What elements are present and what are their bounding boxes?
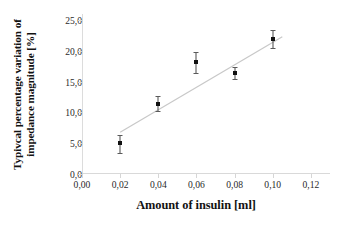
x-tick-label: 0,04: [138, 179, 178, 190]
error-bar-cap: [156, 96, 161, 97]
y-axis-title-line2: impedance magnitude [%]: [23, 20, 36, 171]
y-tick-label: 15,0: [48, 76, 82, 87]
y-tick-mark: [78, 143, 82, 144]
y-tick-label: 5,0: [48, 138, 82, 149]
error-bar-cap: [270, 48, 275, 49]
data-point: [156, 102, 160, 106]
x-tick-mark: [196, 174, 197, 178]
error-bar-cap: [194, 73, 199, 74]
y-tick-mark: [78, 20, 82, 21]
x-tick-label: 0,08: [215, 179, 255, 190]
x-tick-label: 0,12: [291, 179, 331, 190]
y-tick-labels: 0,05,010,015,020,025,0: [44, 14, 82, 174]
data-point: [271, 37, 275, 41]
y-tick-mark: [78, 82, 82, 83]
x-tick-mark: [235, 174, 236, 178]
y-tick-mark: [78, 51, 82, 52]
error-bar-cap: [194, 52, 199, 53]
error-bar-cap: [232, 79, 237, 80]
x-tick-mark: [311, 174, 312, 178]
y-tick-mark: [78, 112, 82, 113]
x-tick-label: 0,02: [100, 179, 140, 190]
x-tick-label: 0,10: [253, 179, 293, 190]
x-tick-mark: [120, 174, 121, 178]
x-tick-mark: [273, 174, 274, 178]
y-axis-title-line1: Typivcal percentage variation of: [10, 20, 22, 171]
data-point: [118, 141, 122, 145]
error-bar-cap: [270, 30, 275, 31]
x-tick-mark: [82, 174, 83, 178]
data-point: [194, 60, 198, 64]
x-tick-label: 0,06: [176, 179, 216, 190]
chart-figure: Typivcal percentage variation of impedan…: [0, 0, 362, 226]
data-point: [233, 71, 237, 75]
x-tick-label: 0,00: [62, 179, 102, 190]
y-tick-label: 10,0: [48, 107, 82, 118]
y-tick-label: 20,0: [48, 45, 82, 56]
y-tick-label: 25,0: [48, 15, 82, 26]
x-axis-title: Amount of insulin [ml]: [46, 198, 346, 213]
y-tick-label: 0,0: [48, 169, 82, 180]
y-axis-title: Typivcal percentage variation of impedan…: [0, 0, 46, 190]
error-bar-cap: [232, 67, 237, 68]
x-tick-mark: [158, 174, 159, 178]
error-bar-cap: [118, 135, 123, 136]
error-bar-cap: [156, 111, 161, 112]
error-bar-cap: [118, 153, 123, 154]
plot-area: 0,05,010,015,020,025,0 0,000,020,040,060…: [82, 14, 330, 174]
